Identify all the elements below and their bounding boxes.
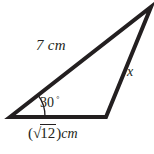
angle-label-30-degrees: 30°	[40, 96, 59, 110]
diagram-canvas: 7 cm x 30° (√12)cm	[0, 0, 154, 154]
base-unit: cm	[61, 126, 77, 141]
angle-value: 30	[40, 95, 54, 110]
side-label-x: x	[127, 65, 133, 79]
triangle-outline	[10, 7, 151, 117]
radicand-value: 12	[40, 124, 56, 141]
degree-symbol-icon: °	[56, 95, 59, 104]
base-label-sqrt-12-cm: (√12)cm	[28, 126, 78, 141]
side-label-hypotenuse: 7 cm	[36, 38, 66, 53]
